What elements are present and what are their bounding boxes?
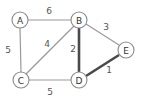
node-label-e: E [123,46,129,56]
node-label-b: B [76,16,82,26]
node-a: A [12,12,28,28]
node-label-d: D [76,76,83,86]
edge-weight-b-e: 3 [103,22,109,32]
node-label-c: C [18,76,24,86]
edge-weight-b-c: 4 [44,39,50,49]
edge-weight-a-b: 6 [46,6,52,16]
node-b: B [71,12,87,28]
edge-weight-a-c: 5 [5,45,11,55]
edge-weight-c-d: 5 [47,87,53,97]
edge-weight-b-d: 2 [70,44,76,54]
node-e: E [118,42,134,58]
edge-d-e [86,55,119,76]
graph-diagram: 6 5 4 2 3 5 1 A B C D E [0,0,144,99]
node-label-a: A [17,16,24,26]
node-c: C [13,72,29,88]
edge-weight-d-e: 1 [106,65,112,75]
edge-b-c [26,26,74,74]
edge-a-c [20,28,21,72]
node-d: D [71,72,87,88]
